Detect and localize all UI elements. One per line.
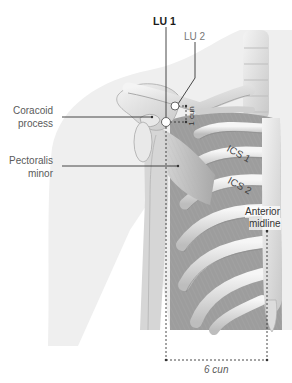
cervical-spine	[243, 30, 269, 120]
lu2-point	[171, 102, 179, 110]
pectoralis-label-line2: minor	[28, 168, 53, 180]
coracoid-label-line1: Coracoid	[13, 105, 53, 117]
diagram-stage: LU 1 LU 2 Coracoid process Pectoralis mi…	[0, 0, 292, 383]
lu1-label: LU 1	[153, 15, 176, 27]
six-cun-label: 6 cun	[204, 364, 228, 376]
pectoralis-label-line1: Pectoralis	[9, 155, 53, 167]
coracoid-label-line2: process	[18, 118, 53, 130]
anterior-midline-label-line1: Anterior	[245, 206, 280, 218]
lu1-point	[162, 118, 171, 127]
lu2-label: LU 2	[184, 31, 205, 43]
anterior-midline-label-line2: midline	[249, 218, 281, 230]
one-cun-label: 1 cun	[186, 106, 198, 126]
humeral-head	[134, 122, 152, 162]
